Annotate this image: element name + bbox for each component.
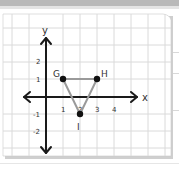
point-label-g: G <box>53 69 60 79</box>
x-tick-1: 1 <box>61 106 65 114</box>
x-tick-4: 4 <box>112 106 117 114</box>
y-tick-1: 1 <box>36 76 40 84</box>
point-g <box>60 76 66 82</box>
x-tick-3: 3 <box>95 106 99 114</box>
point-label-h: H <box>101 69 108 79</box>
point-i <box>77 111 83 117</box>
y-axis-label: y <box>42 25 48 36</box>
y-tick-neg1: -1 <box>33 111 40 119</box>
x-axis-label: x <box>142 92 148 103</box>
y-tick-2: 2 <box>36 58 40 66</box>
point-h <box>94 76 100 82</box>
coordinate-plane: y x 1 2 3 4 2 1 -1 -2 G H I <box>0 0 179 173</box>
point-label-i: I <box>77 122 80 132</box>
graph-paper <box>3 14 171 156</box>
y-tick-neg2: -2 <box>33 128 40 136</box>
